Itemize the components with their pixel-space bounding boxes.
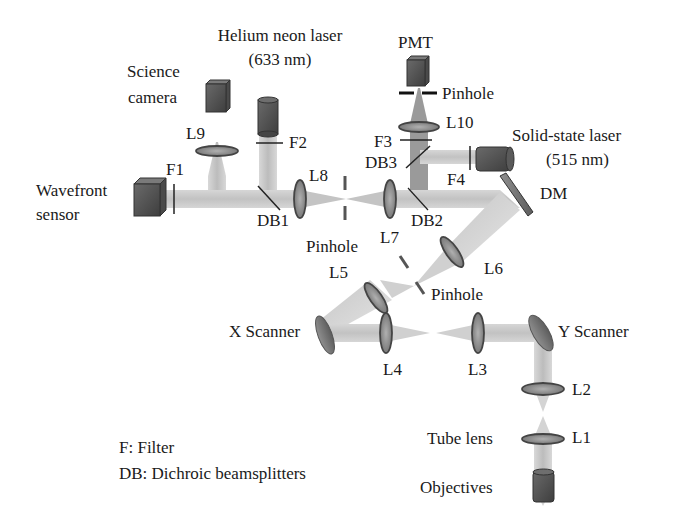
beam-camera-branch [208,176,226,190]
lens-l4 [380,313,392,353]
label-db1: DB1 [257,211,289,231]
label-f3: F3 [374,132,392,152]
beam-l3-yscanner [478,324,538,342]
label-objectives: Objectives [420,478,493,498]
label-solid-state-laser-line2: (515 nm) [546,150,609,170]
beam-wfs-db1 [166,190,266,208]
label-science-camera-line2: camera [128,88,177,108]
label-f4: F4 [447,170,465,190]
label-wavefront-sensor-line2: sensor [36,205,79,225]
label-pinhole-lower: Pinhole [431,285,483,305]
label-solid-state-laser-line1: Solid-state laser [512,126,621,146]
lens-l9 [196,146,238,156]
solid-state-laser [476,147,514,171]
label-y-scanner: Y Scanner [558,322,629,342]
label-f2: F2 [289,133,307,153]
label-l4: L4 [383,360,402,380]
helium-neon-laser [258,97,278,137]
label-l9: L9 [186,124,205,144]
beam-xscanner-l4 [326,324,386,342]
beam-ssl [420,150,476,164]
label-pinhole-pmt: Pinhole [442,84,494,104]
objective [533,469,554,502]
label-l5: L5 [329,263,348,283]
label-l6: L6 [484,259,503,279]
label-l1: L1 [572,428,591,448]
label-pinhole-mid: Pinhole [306,237,358,257]
label-l8: L8 [309,166,328,186]
lens-l1 [522,434,564,444]
label-l10: L10 [446,113,473,133]
label-l7: L7 [380,228,399,248]
pmt [407,56,429,86]
label-dm: DM [540,184,567,204]
label-x-scanner: X Scanner [229,322,300,342]
label-l3: L3 [468,360,487,380]
label-hene-laser-line1: Helium neon laser [190,26,370,46]
label-l2: L2 [572,380,591,400]
lens-l2 [522,383,564,395]
label-pmt: PMT [398,33,433,53]
legend-filter: F: Filter [119,438,174,458]
lens-l7 [384,180,396,218]
lens-l3 [472,313,484,353]
label-tube-lens: Tube lens [427,429,493,449]
label-hene-laser-line2: (633 nm) [190,50,370,70]
wavefront-sensor [134,178,166,216]
label-f1: F1 [166,160,184,180]
legend-dichroic: DB: Dichroic beamsplitters [119,464,306,484]
science-camera [206,80,230,112]
label-science-camera-line1: Science [127,62,180,82]
lens-l8 [294,180,306,218]
label-db2: DB2 [411,211,443,231]
label-wavefront-sensor-line1: Wavefront [36,181,107,201]
label-db3: DB3 [365,153,397,173]
lens-l10 [399,122,439,132]
